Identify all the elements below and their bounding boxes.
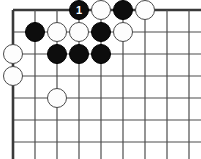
stone-black [69, 44, 89, 64]
stone-black [91, 44, 111, 64]
stone-white [113, 22, 133, 42]
stone-white [47, 22, 67, 42]
stone-black [25, 22, 45, 42]
stone-white [47, 88, 67, 108]
stone-white [69, 22, 89, 42]
go-board-diagram: 1 [0, 0, 201, 159]
stone-black [47, 44, 67, 64]
stone-white [91, 0, 111, 20]
marked-stone-black: 1 [69, 0, 89, 20]
stone-layer: 1 [0, 0, 201, 159]
move-number-label: 1 [70, 1, 88, 19]
stone-white [3, 66, 23, 86]
stone-black [113, 0, 133, 20]
stone-white [135, 0, 155, 20]
stone-black [91, 22, 111, 42]
stone-white [3, 44, 23, 64]
